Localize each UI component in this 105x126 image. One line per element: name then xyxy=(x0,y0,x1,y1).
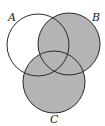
label-b: B xyxy=(91,11,100,24)
venn-diagram: A B C xyxy=(0,0,105,126)
label-a: A xyxy=(7,11,16,24)
label-c: C xyxy=(50,113,59,126)
